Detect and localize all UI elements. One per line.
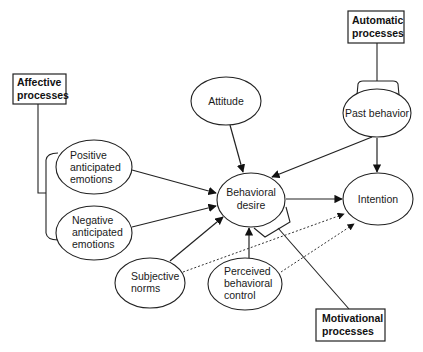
edge-negative-to-desire bbox=[132, 206, 216, 227]
positive-label-line2: anticipated bbox=[70, 161, 121, 173]
control-label-line3: control bbox=[224, 289, 256, 301]
control-label-line1: Perceived bbox=[224, 265, 271, 277]
node-attitude: Attitude bbox=[191, 77, 261, 125]
node-intention: Intention bbox=[343, 173, 413, 225]
negative-label-line1: Negative bbox=[72, 214, 114, 226]
node-subjective-norms: Subjective norms bbox=[115, 258, 185, 308]
norms-label-line1: Subjective bbox=[131, 270, 180, 282]
desire-label-line2: desire bbox=[237, 199, 266, 211]
desire-label-line1: Behavioral bbox=[226, 186, 276, 198]
edge-attitude-to-desire bbox=[230, 125, 243, 172]
affective-label-line1: Affective bbox=[17, 76, 62, 88]
node-positive-anticipated-emotions: Positive anticipated emotions bbox=[56, 140, 132, 194]
automatic-label-line2: processes bbox=[352, 27, 404, 39]
affective-label-line2: processes bbox=[17, 89, 69, 101]
negative-label-line2: anticipated bbox=[72, 226, 123, 238]
automatic-processes-group: Automatic processes bbox=[348, 11, 404, 95]
motivational-label-line2: processes bbox=[322, 325, 374, 337]
edge-control-to-intention bbox=[281, 224, 354, 272]
node-past-behavior: Past behavior bbox=[343, 89, 411, 137]
control-label-line2: behavioral bbox=[224, 277, 272, 289]
motivational-connector-line bbox=[278, 228, 349, 309]
past-behavior-label: Past behavior bbox=[345, 107, 410, 119]
automatic-label-line1: Automatic bbox=[352, 14, 403, 26]
node-perceived-behavioral-control: Perceived behavioral control bbox=[208, 258, 282, 310]
attitude-label: Attitude bbox=[208, 95, 244, 107]
node-behavioral-desire: Behavioral desire bbox=[217, 173, 285, 227]
affective-connector-line bbox=[38, 104, 46, 193]
edge-past-to-desire bbox=[272, 137, 372, 177]
edge-positive-to-desire bbox=[132, 170, 216, 193]
negative-label-line3: emotions bbox=[72, 238, 115, 250]
positive-label-line3: emotions bbox=[70, 173, 113, 185]
path-model-diagram: Affective processes Automatic processes … bbox=[0, 0, 423, 352]
norms-label-line2: norms bbox=[131, 282, 160, 294]
intention-label: Intention bbox=[358, 193, 398, 205]
positive-label-line1: Positive bbox=[70, 149, 107, 161]
motivational-label-line1: Motivational bbox=[322, 312, 383, 324]
edge-norms-to-desire bbox=[170, 217, 223, 261]
node-negative-anticipated-emotions: Negative anticipated emotions bbox=[56, 206, 132, 260]
